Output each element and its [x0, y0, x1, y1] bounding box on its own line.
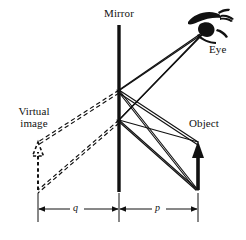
eye-label: Eye [209, 44, 226, 56]
reflected-ray-1 [119, 30, 206, 90]
object-label: Object [189, 118, 219, 130]
virtual-image-label-line2: image [10, 118, 58, 130]
object-arrow [192, 141, 204, 190]
eye-lash-1-icon [218, 9, 230, 14]
virtual-image-label: Virtual image [10, 106, 58, 129]
mirror-label: Mirror [104, 8, 134, 20]
reflected-ray-4 [117, 33, 204, 122]
reflected-ray-3 [117, 33, 204, 92]
incident-ray-base-upper [119, 90, 198, 190]
incident-ray-tip-upper-pair [119, 93, 198, 145]
virtual-image-arrow-head [33, 142, 44, 156]
image-distance-label: q [73, 202, 78, 214]
object-distance-label: p [155, 202, 160, 214]
incident-ray-base-upper-pair [117, 90, 196, 190]
object-arrow-head [192, 141, 204, 158]
virtual-image-arrow [33, 142, 44, 190]
incident-ray-tip-upper [119, 90, 198, 142]
eye-lash-3-icon [216, 29, 228, 38]
reflected-rays [117, 30, 206, 122]
optics-ray-diagram: Mirror Eye Object Virtual image q p [0, 0, 246, 240]
virtual-image-label-line1: Virtual [10, 106, 58, 118]
incident-rays [117, 90, 198, 190]
virtual-ray-base-2 [38, 123, 119, 193]
virtual-ray-base-1 [38, 120, 119, 190]
dimension-extension-lines [38, 193, 198, 222]
